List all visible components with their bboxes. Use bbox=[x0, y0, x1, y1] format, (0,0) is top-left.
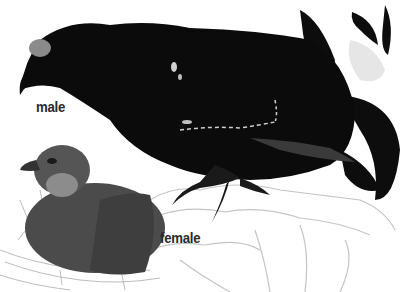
male-undertail bbox=[349, 40, 385, 81]
male-red-comb bbox=[29, 39, 51, 57]
female-label: female bbox=[160, 229, 200, 246]
illustration-canvas bbox=[0, 0, 404, 292]
grouse-illustration: male female bbox=[0, 0, 404, 292]
male-label: male bbox=[36, 98, 65, 115]
female-grouse bbox=[20, 145, 165, 275]
